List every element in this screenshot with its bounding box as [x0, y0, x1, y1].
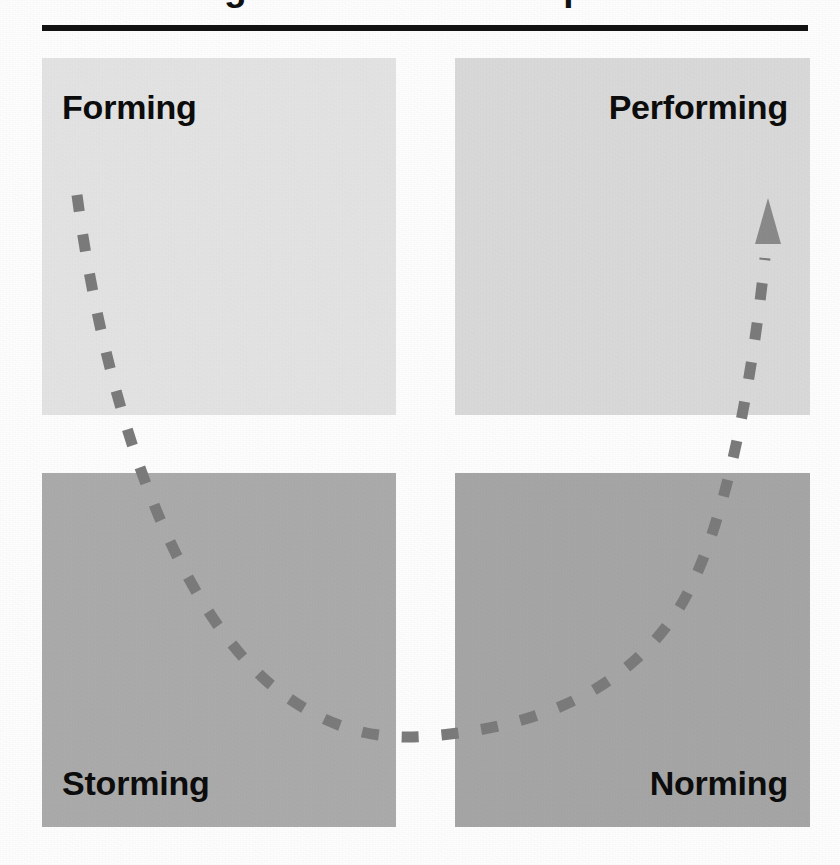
quadrant-forming: Forming — [42, 58, 396, 415]
quadrant-label-performing: Performing — [609, 88, 788, 127]
page-title-clip: Stages of Team Development — [0, 0, 840, 12]
quadrant-storming: Storming — [42, 473, 396, 827]
quadrant-performing: Performing — [455, 58, 810, 415]
quadrant-label-forming: Forming — [62, 88, 197, 127]
quadrant-label-norming: Norming — [650, 764, 788, 803]
quadrant-norming: Norming — [455, 473, 810, 827]
team-development-figure: Stages of Team Development Forming Perfo… — [0, 0, 840, 865]
title-underline-rule — [42, 25, 808, 31]
quadrant-label-storming: Storming — [62, 764, 210, 803]
page-title: Stages of Team Development — [0, 0, 840, 10]
